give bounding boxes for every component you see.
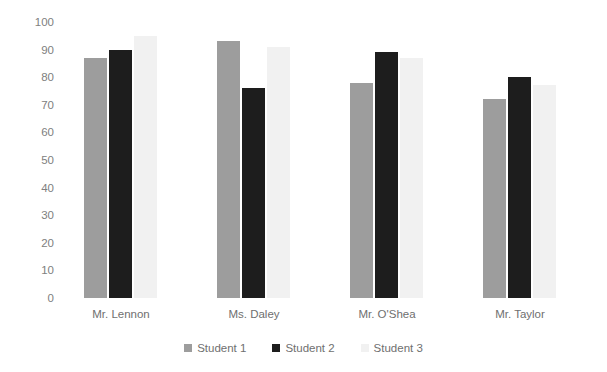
x-axis-label-oshea: Mr. O'Shea bbox=[317, 308, 457, 320]
legend-label-student-3: Student 3 bbox=[374, 342, 423, 354]
legend-swatch-icon-student-3 bbox=[361, 344, 369, 352]
legend-swatch-icon-student-2 bbox=[272, 344, 280, 352]
bar-lennon-student-1 bbox=[84, 58, 107, 298]
bar-daley-student-3 bbox=[267, 47, 290, 298]
y-tick-label-70: 70 bbox=[8, 99, 54, 111]
y-tick-label-20: 20 bbox=[8, 237, 54, 249]
y-tick-label-40: 40 bbox=[8, 182, 54, 194]
bar-oshea-student-3 bbox=[400, 58, 423, 298]
y-tick-label-10: 10 bbox=[8, 264, 54, 276]
y-tick-label-100: 100 bbox=[8, 16, 54, 28]
bar-taylor-student-1 bbox=[483, 99, 506, 298]
x-axis-label-daley: Ms. Daley bbox=[184, 308, 324, 320]
bar-chart: 100 90 80 70 60 50 40 30 20 10 0 bbox=[0, 0, 607, 372]
legend-swatch-icon-student-1 bbox=[184, 344, 192, 352]
bar-daley-student-1 bbox=[217, 41, 240, 298]
x-axis-label-taylor: Mr. Taylor bbox=[450, 308, 590, 320]
bar-oshea-student-2 bbox=[375, 52, 398, 298]
y-axis: 100 90 80 70 60 50 40 30 20 10 0 bbox=[0, 0, 62, 320]
plot-area bbox=[62, 22, 594, 298]
legend-item-student-1[interactable]: Student 1 bbox=[184, 342, 246, 354]
legend-label-student-2: Student 2 bbox=[285, 342, 334, 354]
legend-label-student-1: Student 1 bbox=[197, 342, 246, 354]
y-tick-label-50: 50 bbox=[8, 154, 54, 166]
bar-taylor-student-3 bbox=[533, 85, 556, 298]
bar-lennon-student-3 bbox=[134, 36, 157, 298]
legend-item-student-3[interactable]: Student 3 bbox=[361, 342, 423, 354]
y-tick-label-80: 80 bbox=[8, 71, 54, 83]
bar-lennon-student-2 bbox=[109, 50, 132, 298]
legend: Student 1 Student 2 Student 3 bbox=[0, 342, 607, 354]
bar-taylor-student-2 bbox=[508, 77, 531, 298]
legend-item-student-2[interactable]: Student 2 bbox=[272, 342, 334, 354]
bar-oshea-student-1 bbox=[350, 83, 373, 298]
y-tick-label-60: 60 bbox=[8, 126, 54, 138]
x-axis-label-lennon: Mr. Lennon bbox=[51, 308, 191, 320]
y-tick-label-0: 0 bbox=[8, 292, 54, 304]
bar-daley-student-2 bbox=[242, 88, 265, 298]
y-tick-label-90: 90 bbox=[8, 44, 54, 56]
y-tick-label-30: 30 bbox=[8, 209, 54, 221]
